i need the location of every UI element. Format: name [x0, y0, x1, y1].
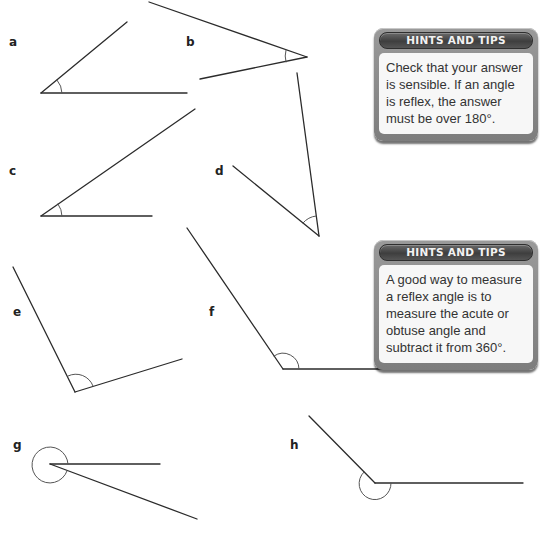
angle-a	[41, 22, 187, 93]
angle-label-g: g	[13, 438, 22, 452]
angle-b	[149, 2, 307, 79]
hint-body: Check that your answer is sensible. If a…	[379, 53, 533, 134]
angle-h	[309, 416, 523, 500]
angle-f	[187, 228, 386, 369]
hint-box-1: HINTS AND TIPS Check that your answer is…	[374, 28, 538, 141]
angle-label-f: f	[209, 305, 214, 319]
angle-label-b: b	[186, 35, 195, 49]
angle-c	[41, 109, 195, 216]
angle-label-d: d	[215, 164, 224, 178]
angle-g	[32, 447, 197, 519]
angle-label-a: a	[9, 35, 17, 49]
hint-box-2: HINTS AND TIPS A good way to measure a r…	[374, 240, 538, 370]
angle-d	[233, 73, 319, 236]
hint-title: HINTS AND TIPS	[379, 32, 533, 49]
hint-body: A good way to measure a reflex angle is …	[379, 265, 533, 363]
hint-title: HINTS AND TIPS	[379, 244, 533, 261]
angle-label-c: c	[9, 164, 16, 178]
angle-label-e: e	[13, 305, 21, 319]
angle-e	[13, 267, 182, 392]
angle-label-h: h	[290, 438, 299, 452]
